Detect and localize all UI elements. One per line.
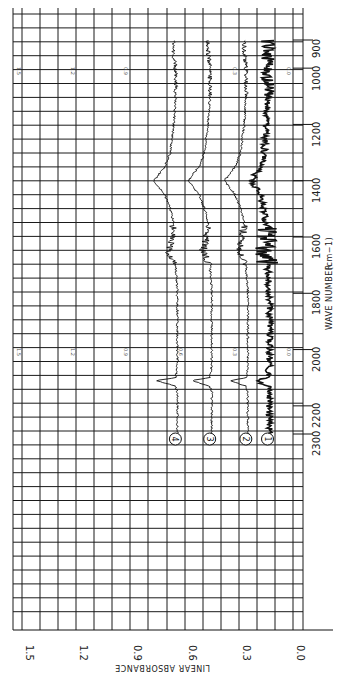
absorbance-tick-labels: 1.5 1.2 0.9 0.6 0.3 0.0 <box>24 645 306 661</box>
inner-label: 1.2 <box>70 67 76 75</box>
x-tick-1000: 1000 <box>311 66 322 91</box>
y-tick-1.2: 1.2 <box>78 645 89 661</box>
svg-text:2: 2 <box>241 437 250 442</box>
inner-label: 0.0 <box>286 67 292 75</box>
inner-label: 0.9 <box>123 348 129 356</box>
wavenumber-tick-labels: 900 1000 1200 1400 1600 1800 2000 2200 2… <box>311 39 322 456</box>
svg-text:4: 4 <box>170 437 179 442</box>
x-tick-2000: 2000 <box>311 347 322 372</box>
spectrum-chart: 1.5 1.2 0.9 0.6 0.3 0.0 LINEAR ABSORBANC… <box>0 0 345 675</box>
wavenumber-title-text: WAVE NUMBER <box>325 264 334 330</box>
x-tick-1200: 1200 <box>311 122 322 147</box>
inner-label: 0.3 <box>232 67 238 75</box>
svg-text:3: 3 <box>205 437 214 442</box>
y-tick-0.9: 0.9 <box>132 645 143 661</box>
y-tick-0.3: 0.3 <box>241 645 252 661</box>
inner-scale-labels-top: 1.5 1.2 0.9 0.3 0.0 <box>16 67 292 75</box>
trace-marker-3: 3 <box>204 433 216 445</box>
x-tick-1600: 1600 <box>311 234 322 259</box>
inner-label: 0.0 <box>286 348 292 356</box>
inner-label: 0.9 <box>123 67 129 75</box>
x-tick-2200: 2200 <box>311 403 322 428</box>
y-tick-1.5: 1.5 <box>24 645 35 661</box>
wavenumber-axis-title: WAVE NUMBER (cm−1) <box>325 237 334 330</box>
x-tick-1800: 1800 <box>311 290 322 315</box>
inner-label: 1.2 <box>70 348 76 356</box>
x-tick-2300: 2300 <box>311 431 322 456</box>
wavenumber-unit-text: (cm−1) <box>325 237 334 270</box>
inner-label: 0.3 <box>232 348 238 356</box>
trace-marker-2: 2 <box>240 433 252 445</box>
trace-marker-4: 4 <box>169 433 181 445</box>
y-tick-0.0: 0.0 <box>295 645 306 661</box>
y-tick-0.6: 0.6 <box>187 645 198 661</box>
svg-text:1: 1 <box>263 437 272 442</box>
inner-label: 1.5 <box>16 67 22 75</box>
absorbance-axis-title: LINEAR ABSORBANCE <box>115 663 210 672</box>
inner-label: 1.5 <box>16 348 22 356</box>
inner-scale-labels-middle: 1.5 1.2 0.9 0.6 0.3 0.0 <box>16 348 292 356</box>
chart-grid <box>13 8 303 630</box>
x-tick-1400: 1400 <box>311 178 322 203</box>
x-tick-900: 900 <box>311 39 322 58</box>
trace-marker-1: 1 <box>262 433 274 445</box>
